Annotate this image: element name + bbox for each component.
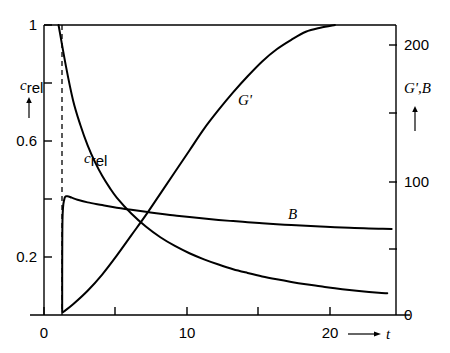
annotation-b: B [288,206,297,222]
curve-b [62,196,391,312]
y-left-tick-label-0.2: 0.2 [16,248,37,265]
left-axis-ticks [44,25,52,257]
y-right-tick-label-100: 100 [404,173,429,190]
y-right-axis-title: G',B [404,80,431,131]
y-left-axis-arrow-head [26,97,32,103]
curve-c-rel [59,25,388,293]
y-left-title-sub: rel [27,79,44,96]
x-axis-title: t [348,326,391,342]
annotation-g-prime: G' [238,92,253,108]
y-right-tick-label-0: 0 [404,306,412,323]
y-left-tick-label-0.6: 0.6 [16,132,37,149]
axes-group [30,25,410,315]
annotation-c-rel-sub: rel [91,152,108,169]
y-right-axis-arrow-head [412,106,418,112]
y-right-tick-label-200: 200 [404,36,429,53]
x-axis-arrow-head [374,331,381,336]
x-tick-label-0: 0 [40,324,48,341]
x-axis-title-text: t [386,326,391,342]
annotation-c-rel: crel [84,150,107,169]
y-left-axis-title: crel [20,77,43,118]
x-tick-label-20: 20 [322,324,339,341]
figure-container: 0 10 20 1 0.6 0.2 200 100 0 crel G',B [0,0,450,353]
x-tick-label-10: 10 [179,324,196,341]
y-right-title-text: G',B [404,80,431,96]
y-left-tick-label-1: 1 [29,16,37,33]
svg-text:crel: crel [20,77,43,96]
chart-canvas: 0 10 20 1 0.6 0.2 200 100 0 crel G',B [0,0,450,353]
x-axis-ticks [44,307,330,315]
